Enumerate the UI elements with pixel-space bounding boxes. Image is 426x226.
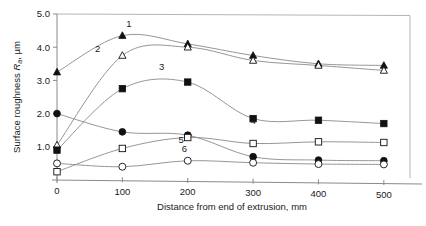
series-line-3 [57,79,384,150]
marker-filled-square [54,147,60,153]
x-axis-title: Distance from end of extrusion, mm [157,201,307,212]
series-label-3: 3 [159,61,164,72]
marker-open-square [381,139,387,145]
y-tick-label: 2.0 [37,108,50,119]
marker-filled-square [315,117,321,123]
x-axis-line [52,180,422,184]
x-tick-label: 100 [114,186,130,197]
series-line-6 [57,161,384,167]
y-tick-label: 3.0 [37,75,50,86]
series-label-6: 6 [182,143,187,154]
marker-filled-triangle [53,68,60,75]
marker-open-square [185,134,191,140]
marker-open-circle [250,159,257,166]
x-tick-label: 0 [54,185,59,196]
marker-open-circle [184,157,191,164]
x-tick-label: 400 [311,188,327,199]
surface-roughness-line-chart: 1.02.03.04.05.00100200300400500123456Dis… [0,0,426,226]
marker-filled-circle [54,110,61,117]
y-tick-label: 4.0 [37,42,50,53]
marker-filled-square [381,120,387,126]
marker-filled-square [185,79,191,85]
marker-open-circle [119,163,126,170]
y-tick-label: 5.0 [37,8,50,19]
series-line-2 [57,45,384,145]
plot-frame [57,14,410,178]
marker-open-circle [380,161,387,168]
svg-text:Surface roughness Ra, µm: Surface roughness Ra, µm [11,41,23,153]
y-tick-label: 1.0 [37,141,50,152]
marker-open-circle [54,160,61,167]
marker-open-square [250,140,256,146]
x-tick-label: 300 [245,187,261,198]
series-label-1: 1 [126,18,131,29]
marker-open-circle [315,161,322,168]
marker-open-square [119,145,125,151]
x-tick-label: 500 [376,189,392,200]
x-tick-label: 200 [180,186,196,197]
series-label-2: 2 [95,43,100,54]
marker-open-triangle [119,52,126,59]
y-axis-title: Surface roughness Ra, µm [11,41,23,153]
marker-open-square [54,169,60,175]
marker-filled-square [119,86,125,92]
series-label-4: 4 [250,115,255,126]
marker-open-square [315,139,321,145]
marker-filled-circle [119,128,126,135]
chart-figure: 1.02.03.04.05.00100200300400500123456Dis… [0,0,426,226]
